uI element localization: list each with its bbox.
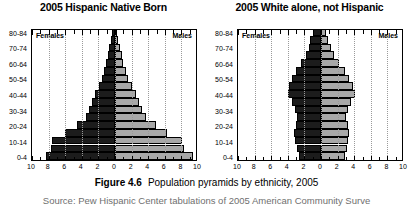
y-tick-label: 0-4: [17, 154, 27, 161]
axis-tick: [49, 156, 50, 161]
y-tick-label: 30-34: [215, 107, 233, 114]
figure-source: Source: Pew Hispanic Center tabulations …: [0, 195, 413, 206]
gridline: [148, 30, 149, 160]
axis-tick: [338, 156, 339, 161]
bar-female: [294, 129, 321, 137]
pyramid-row: [238, 59, 402, 67]
axis-tick: [363, 30, 364, 34]
y-tick-label: 70-74: [9, 45, 27, 52]
x-tick-label: 0: [112, 163, 116, 170]
gridline: [304, 30, 305, 160]
bar-male: [321, 59, 339, 67]
axis-tick: [57, 157, 58, 161]
chart-panel-white-alone-not-hispanic: 2005 White alone, not Hispanic 0-410-142…: [206, 0, 413, 185]
bar-male: [115, 145, 184, 153]
axis-tick: [263, 30, 264, 34]
axis-tick: [115, 156, 116, 161]
bar-male: [321, 36, 328, 44]
axis-tick: [246, 157, 247, 161]
x-tick-label: 4: [285, 163, 289, 170]
bar-male: [115, 98, 139, 106]
axis-tick: [263, 157, 264, 161]
pyramid-row: [32, 106, 196, 114]
y-tick-label: 20-24: [215, 123, 233, 130]
x-tick-label: 6: [368, 163, 372, 170]
bar-male: [321, 51, 334, 59]
axis-tick: [354, 30, 355, 35]
axis-tick: [296, 30, 297, 34]
bar-female: [310, 36, 321, 44]
axis-tick: [190, 30, 191, 34]
axis-tick: [157, 157, 158, 161]
axis-tick: [313, 30, 314, 34]
pyramid-row: [32, 44, 196, 52]
axis-tick: [379, 157, 380, 161]
y-tick-label: 20-24: [9, 123, 27, 130]
axis-tick: [132, 156, 133, 161]
pyramid-row: [32, 113, 196, 121]
axis-tick: [396, 157, 397, 161]
axis-tick: [288, 156, 289, 161]
pyramid-row: [238, 44, 402, 52]
bar-female: [295, 106, 321, 114]
axis-tick: [387, 30, 388, 35]
axis-tick: [90, 30, 91, 34]
x-tick-label: 8: [384, 163, 388, 170]
x-tick-label: 6: [62, 163, 66, 170]
pyramid-row: [32, 82, 196, 90]
bar-male: [321, 152, 345, 160]
axis-tick: [40, 157, 41, 161]
pyramid-row: [238, 51, 402, 59]
bar-female: [313, 29, 321, 36]
x-tick-label: 6: [268, 163, 272, 170]
bar-female: [92, 98, 115, 106]
axis-tick: [173, 157, 174, 161]
axis-tick: [346, 157, 347, 161]
axis-tick: [190, 157, 191, 161]
pyramid-row: [238, 137, 402, 145]
pyramid-row: [32, 121, 196, 129]
x-tick-label: 6: [162, 163, 166, 170]
bar-male: [115, 67, 126, 75]
axis-tick: [74, 30, 75, 34]
bar-female: [299, 152, 321, 160]
pyramid-row: [32, 75, 196, 83]
figure-number: Figure 4.6: [95, 177, 142, 188]
bar-female: [292, 75, 321, 83]
axis-tick: [132, 30, 133, 35]
axis-tick: [280, 30, 281, 34]
bar-male: [321, 67, 345, 75]
figure-caption-text: Population pyramids by ethnicity, 2005: [148, 177, 318, 188]
axis-tick: [371, 156, 372, 161]
y-tick-label: 10-14: [215, 138, 233, 145]
gridline: [288, 30, 289, 160]
pyramid-row: [32, 59, 196, 67]
bar-female: [52, 137, 115, 145]
gridline: [132, 30, 133, 160]
x-tick-label: 10: [193, 163, 201, 170]
bar-female: [89, 106, 115, 114]
pyramid-row: [238, 67, 402, 75]
axis-tick: [49, 30, 50, 35]
axis-tick: [246, 30, 247, 34]
bar-female: [296, 67, 321, 75]
gridline: [98, 30, 99, 160]
y-tick-label: 80-84: [9, 29, 27, 36]
x-tick-label: 4: [79, 163, 83, 170]
y-tick-label: 50-54: [9, 76, 27, 83]
pyramid-row: [238, 98, 402, 106]
bar-male: [321, 145, 347, 153]
axis-tick: [387, 156, 388, 161]
axis-tick: [321, 30, 322, 35]
x-tick-label: 8: [252, 163, 256, 170]
pyramid-row: [32, 98, 196, 106]
axis-tick: [140, 30, 141, 34]
axis-tick: [65, 30, 66, 35]
gridline: [271, 30, 272, 160]
axis-tick: [40, 30, 41, 34]
y-tick-label: 70-74: [215, 45, 233, 52]
pyramid-row: [238, 145, 402, 153]
chart-panel-hispanic-native-born: 2005 Hispanic Native Born 0-410-1420-243…: [0, 0, 207, 185]
bar-female: [86, 113, 115, 121]
pyramid-row: [238, 75, 402, 83]
